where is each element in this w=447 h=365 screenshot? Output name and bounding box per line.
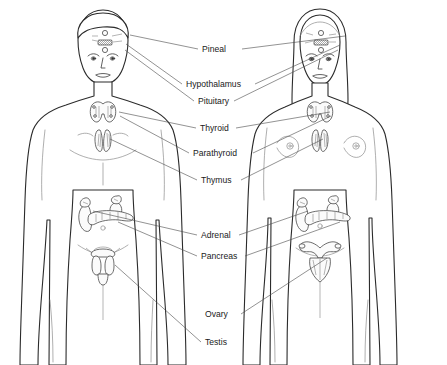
female-parathyroid-upper-left (310, 106, 313, 109)
male-body (20, 82, 186, 365)
female-uterus (300, 242, 341, 258)
male-parathyroid-upper-right (111, 106, 114, 109)
male-testes (86, 247, 120, 320)
male-adrenal-left (80, 198, 90, 207)
label-testis: Testis (205, 337, 227, 347)
gland-labels: Pineal Hypothalamus Pituitary Thyroid Pa… (186, 44, 241, 347)
female-pituitary-gland (318, 47, 323, 52)
male-adrenal-right (111, 196, 121, 204)
female-pineal-gland (318, 30, 323, 35)
female-pancreas (305, 211, 350, 225)
label-pituitary: Pituitary (198, 96, 230, 106)
female-ovary-left (299, 244, 305, 248)
endocrine-system-diagram: Pineal Hypothalamus Pituitary Thyroid Pa… (0, 0, 447, 365)
label-pineal: Pineal (202, 44, 226, 54)
male-parathyroid-upper-left (93, 106, 96, 109)
male-parathyroid-lower-left (94, 115, 97, 118)
label-thymus: Thymus (201, 175, 232, 185)
male-pineal-gland (102, 30, 107, 35)
label-thyroid: Thyroid (200, 123, 229, 133)
female-ovary-right (335, 244, 341, 248)
diagram-canvas: Pineal Hypothalamus Pituitary Thyroid Pa… (0, 0, 447, 365)
label-adrenal: Adrenal (201, 230, 231, 240)
female-figure (243, 9, 397, 365)
male-figure (20, 10, 186, 365)
label-pancreas: Pancreas (201, 251, 237, 261)
female-parathyroid-upper-right (328, 106, 331, 109)
label-ovary: Ovary (205, 309, 229, 319)
male-parathyroid-lower-right (110, 115, 113, 118)
male-pancreas (88, 211, 133, 225)
female-adrenal-right (328, 196, 338, 204)
female-hypothalamus (314, 40, 328, 45)
female-adrenal-left (297, 198, 307, 207)
male-hypothalamus (98, 40, 112, 45)
male-pituitary-gland (102, 47, 107, 52)
label-parathyroid: Parathyroid (193, 148, 237, 158)
label-hypothalamus: Hypothalamus (186, 79, 241, 89)
